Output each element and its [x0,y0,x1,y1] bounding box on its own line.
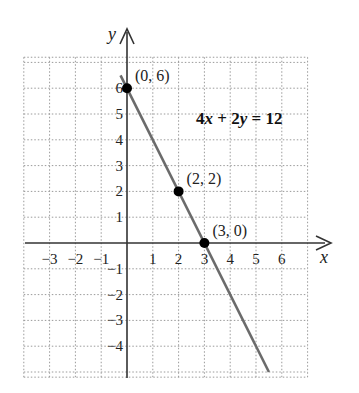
grid [24,57,308,377]
line-graph: x y −3−2−1123456 654321−1−2−3−4 (0, 6)(2… [0,0,359,393]
y-tick-label: 5 [116,106,124,122]
labeled-points: (0, 6)(2, 2)(3, 0) [122,67,247,248]
point-marker [122,83,132,93]
point-label: (0, 6) [135,67,170,85]
y-tick-label: 3 [116,158,124,174]
y-tick-label: 4 [116,132,124,148]
x-tick-label: −2 [67,251,83,267]
y-tick-label: −4 [107,338,123,354]
x-tick-label: 2 [175,251,183,267]
point-label: (3, 0) [212,222,247,240]
point-marker [199,238,209,248]
y-tick-label: −1 [107,261,123,277]
x-tick-label: 4 [226,251,234,267]
y-axis-label: y [106,24,116,44]
equation-label: 4x + 2y = 12 [196,109,282,128]
point-label: (2, 2) [187,170,222,188]
x-tick-label: 1 [149,251,157,267]
y-tick-label: 2 [116,183,124,199]
y-tick-label: 1 [116,209,124,225]
x-tick-label: 5 [252,251,260,267]
y-tick-labels: 654321−1−2−3−4 [107,80,123,354]
x-tick-labels: −3−2−1123456 [42,251,286,267]
x-axis-label: x [319,247,328,267]
point-marker [174,186,184,196]
y-tick-label: −2 [107,287,123,303]
y-tick-label: −3 [107,312,123,328]
axes: x y [25,24,331,378]
x-tick-label: −3 [42,251,58,267]
x-tick-label: 6 [278,251,286,267]
x-tick-label: 3 [201,251,209,267]
